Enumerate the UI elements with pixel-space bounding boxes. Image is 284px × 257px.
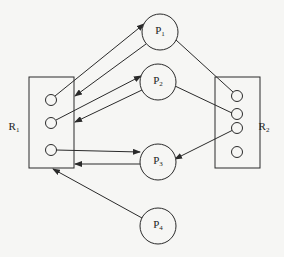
edge-assignment-R1-1-to-P2 [56, 76, 141, 120]
resources: R1R2 [9, 77, 270, 168]
resource-instance-dot [46, 145, 57, 156]
edge-request-P1-to-R1 [75, 44, 146, 96]
process-p1: P1 [142, 14, 178, 50]
resource-instance-dot [46, 95, 57, 106]
resource-instance-dot [232, 123, 243, 134]
process-p4: P4 [140, 208, 176, 244]
edge-request-P2-to-R1 [75, 90, 142, 122]
resource-label: R1 [9, 120, 20, 134]
processes: P1P2P3P4 [140, 14, 178, 244]
edge-assignment-R1-2-to-P3 [56, 150, 140, 152]
edge-assignment-P2-to-R2-1 [175, 86, 232, 113]
process-p2: P2 [140, 64, 176, 100]
edge-request-P4-to-R1 [53, 169, 142, 218]
edge-assignment-R1-0-to-P1 [55, 24, 144, 96]
resource-instance-dot [232, 109, 243, 120]
resource-r1: R1 [9, 77, 74, 168]
resource-allocation-graph: R1R2 P1P2P3P4 [0, 0, 284, 257]
diagram-svg: R1R2 P1P2P3P4 [0, 0, 284, 257]
edge-assignment-R2-2-to-P3 [175, 130, 233, 159]
edges [53, 24, 233, 218]
edge-assignment-P1-to-R2-0 [176, 40, 233, 92]
resource-instance-dot [232, 91, 243, 102]
resource-r2: R2 [215, 77, 270, 168]
resource-label: R2 [259, 120, 270, 134]
resource-instance-dot [46, 118, 57, 129]
process-p3: P3 [140, 144, 176, 180]
resource-instance-dot [232, 147, 243, 158]
